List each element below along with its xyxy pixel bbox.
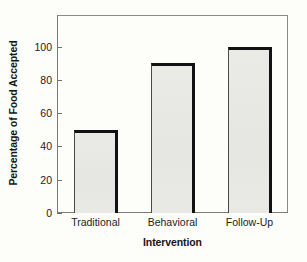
y-tick-label: 40	[26, 141, 52, 151]
x-axis-tick-labels: TraditionalBehavioralFollow-Up	[57, 216, 288, 232]
x-tick-label: Follow-Up	[211, 216, 288, 228]
y-tick-label: 80	[26, 75, 52, 85]
y-tick-label: 100	[26, 42, 52, 52]
bar-behavioral	[151, 63, 195, 213]
bar-chart-figure: Percentage of Food Accepted 020406080100…	[0, 0, 307, 262]
y-axis-tick-labels: 020406080100	[25, 0, 52, 262]
bar-fill	[229, 50, 269, 213]
bar-fill	[75, 133, 115, 213]
bar-traditional	[74, 130, 118, 213]
x-tick-label: Behavioral	[134, 216, 211, 228]
y-axis-title-text: Percentage of Food Accepted	[7, 40, 19, 185]
y-tick-mark	[57, 213, 62, 214]
x-tick-label: Traditional	[57, 216, 134, 228]
bar-fill	[152, 66, 192, 213]
y-tick-label: 60	[26, 108, 52, 118]
plot-area	[57, 15, 288, 213]
y-tick-label: 0	[26, 208, 52, 218]
x-axis-title: Intervention	[57, 236, 288, 248]
y-tick-label: 20	[26, 175, 52, 185]
y-axis-title: Percentage of Food Accepted	[6, 14, 20, 212]
bar-follow-up	[228, 47, 272, 213]
